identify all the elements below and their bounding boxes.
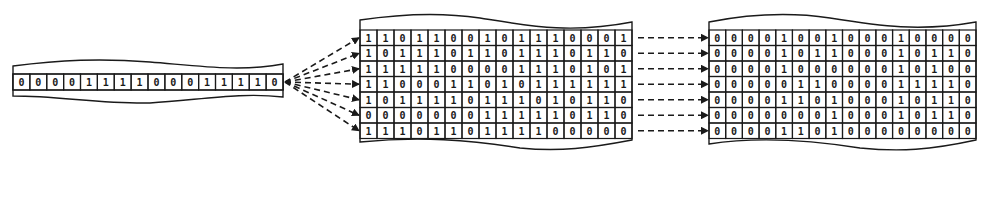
bit-value: 1 [898,95,904,106]
bit-value: 0 [714,33,720,44]
bit-value: 0 [931,126,937,137]
bit-value: 1 [204,77,210,88]
bit-value: 0 [798,48,804,59]
bit-value: 0 [881,95,887,106]
bit-value: 0 [620,95,626,106]
bit-value: 0 [731,110,737,121]
bit-value: 0 [501,64,507,75]
bit-value: 1 [915,79,921,90]
bit-value: 0 [831,64,837,75]
bit-value: 0 [535,95,541,106]
bit-value: 0 [764,110,770,121]
bit-value: 0 [569,64,575,75]
result-grid: 0000100100010000000010110001011000001000… [709,15,976,150]
bit-value: 1 [255,77,261,88]
bit-value: 0 [450,64,456,75]
bit-value: 1 [931,110,937,121]
bit-value: 0 [814,33,820,44]
bit-value: 0 [620,126,626,137]
bit-value: 1 [484,95,490,106]
bit-value: 0 [881,64,887,75]
bit-value: 0 [915,126,921,137]
bit-value: 1 [416,64,422,75]
bit-value: 0 [382,48,388,59]
bit-value: 0 [416,110,422,121]
bit-value: 1 [569,79,575,90]
bit-value: 1 [781,95,787,106]
diagram-canvas: 0000111100011110 11011001011100011011101… [0,0,992,198]
bit-value: 1 [484,110,490,121]
bit-value: 1 [399,95,405,106]
bit-value: 0 [569,110,575,121]
bit-value: 1 [552,64,558,75]
bit-value: 0 [915,33,921,44]
bit-value: 0 [931,33,937,44]
bit-value: 0 [569,48,575,59]
bit-value: 0 [764,95,770,106]
bit-value: 1 [120,77,126,88]
bit-value: 0 [450,33,456,44]
bit-value: 1 [603,79,609,90]
bit-value: 0 [731,48,737,59]
bit-value: 0 [399,33,405,44]
bit-value: 0 [948,64,954,75]
bit-value: 1 [798,95,804,106]
bit-value: 1 [484,126,490,137]
bit-value: 1 [898,79,904,90]
bit-value: 1 [399,48,405,59]
bit-value: 0 [714,126,720,137]
fan-out-arrow [285,82,359,115]
bit-value: 1 [620,64,626,75]
bit-value: 1 [931,95,937,106]
bit-value: 0 [569,126,575,137]
bit-value: 1 [831,48,837,59]
bit-value: 1 [365,79,371,90]
bit-value: 0 [764,48,770,59]
bit-value: 0 [748,126,754,137]
bit-value: 0 [586,126,592,137]
bit-value: 0 [965,95,971,106]
bit-value: 1 [450,95,456,106]
bit-value: 0 [748,33,754,44]
bit-value: 1 [518,64,524,75]
bit-value: 0 [848,79,854,90]
bit-value: 0 [714,48,720,59]
bit-value: 0 [915,110,921,121]
bit-value: 1 [948,79,954,90]
bit-value: 1 [898,48,904,59]
bit-value: 0 [748,110,754,121]
bit-value: 0 [965,64,971,75]
bit-value: 1 [948,95,954,106]
bit-value: 0 [399,79,405,90]
bit-value: 0 [965,79,971,90]
bit-value: 0 [965,33,971,44]
bit-value: 1 [416,48,422,59]
bit-value: 1 [501,110,507,121]
fan-out-arrow [285,82,359,131]
bit-value: 1 [586,64,592,75]
bit-value: 1 [518,110,524,121]
bit-value: 0 [764,64,770,75]
bit-value: 1 [399,126,405,137]
bit-value: 0 [416,126,422,137]
bit-value: 1 [814,79,820,90]
bit-value: 0 [948,33,954,44]
bit-value: 0 [714,95,720,106]
bit-value: 1 [620,79,626,90]
bit-value: 0 [714,79,720,90]
bit-value: 0 [814,64,820,75]
bit-value: 0 [865,33,871,44]
bit-value: 0 [501,33,507,44]
bit-value: 0 [382,110,388,121]
bit-value: 0 [814,110,820,121]
bit-value: 0 [416,79,422,90]
bit-value: 0 [814,126,820,137]
bit-value: 0 [552,126,558,137]
bit-value: 0 [814,95,820,106]
row-arrows [638,38,708,131]
bit-value: 1 [535,64,541,75]
bit-value: 0 [52,77,58,88]
bit-value: 0 [467,95,473,106]
bit-value: 0 [848,64,854,75]
bit-value: 0 [764,33,770,44]
